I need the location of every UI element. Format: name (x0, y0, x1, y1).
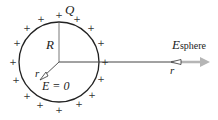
svg-text:+: + (23, 23, 31, 33)
field-arrow-head (200, 57, 210, 67)
r-vector-outside-label: r (170, 65, 174, 76)
r-vector-inside-label: r (35, 68, 39, 79)
e-sphere-label: Esphere (172, 38, 206, 51)
svg-text:+: + (101, 57, 109, 67)
svg-text:+: + (37, 14, 45, 24)
svg-text:+: + (88, 90, 96, 100)
svg-text:+: + (55, 105, 63, 115)
e-field-symbol: E (172, 37, 180, 52)
e-zero-label: E = 0 (42, 80, 69, 92)
charge-label: Q (65, 3, 74, 16)
svg-text:+: + (12, 75, 20, 85)
svg-text:+: + (87, 23, 95, 33)
svg-text:+: + (97, 38, 105, 48)
svg-text:+: + (9, 57, 17, 67)
sphere-diagram: + + + + + + + + + + + + + + + + (0, 0, 218, 120)
radius-label: R (46, 38, 54, 51)
svg-text:+: + (55, 10, 63, 20)
svg-text:+: + (75, 99, 83, 109)
svg-text:+: + (36, 100, 44, 110)
svg-text:+: + (97, 74, 105, 84)
svg-text:+: + (23, 91, 31, 101)
svg-text:+: + (13, 38, 21, 48)
e-field-subscript: sphere (180, 40, 206, 51)
